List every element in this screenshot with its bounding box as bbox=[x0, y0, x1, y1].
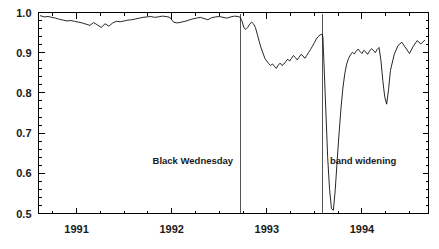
annotation-label: band widening bbox=[330, 155, 397, 166]
y-tick-label: 0.8 bbox=[16, 87, 31, 99]
y-tick-label: 1.0 bbox=[16, 7, 31, 19]
y-tick-label: 0.9 bbox=[16, 47, 31, 59]
y-tick-label: 0.7 bbox=[16, 127, 31, 139]
x-tick-label: 1992 bbox=[159, 223, 183, 235]
x-tick-label: 1993 bbox=[255, 223, 279, 235]
x-tick-label: 1994 bbox=[350, 223, 375, 235]
x-tick-label: 1991 bbox=[64, 223, 88, 235]
annotation-label: Black Wednesday bbox=[153, 155, 234, 166]
exchange-rate-chart: 1.00.90.80.70.60.5 1991199219931994 Blac… bbox=[0, 0, 439, 249]
y-tick-label: 0.5 bbox=[16, 208, 31, 220]
y-tick-label: 0.6 bbox=[16, 167, 31, 179]
